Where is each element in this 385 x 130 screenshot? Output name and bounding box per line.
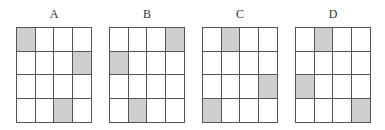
shaded-cell — [166, 28, 185, 52]
grid-cell — [333, 28, 352, 52]
grid-cell — [110, 99, 129, 123]
panel-label: B — [109, 7, 185, 21]
grid-panel-c: C — [202, 0, 278, 130]
shaded-cell — [54, 99, 73, 123]
grid-cell — [54, 28, 73, 52]
shaded-cell — [352, 99, 371, 123]
panel-label: C — [202, 7, 278, 21]
grid-cell — [17, 75, 36, 99]
grid — [109, 27, 185, 123]
grid-cell — [147, 75, 166, 99]
grid-cell — [17, 99, 36, 123]
grid-panel-b: B — [109, 0, 185, 130]
grid-cell — [129, 75, 148, 99]
grid-cell — [54, 52, 73, 76]
grid-cell — [36, 52, 55, 76]
shaded-cell — [222, 28, 241, 52]
grid-cell — [296, 99, 315, 123]
grid-cell — [203, 28, 222, 52]
shaded-cell — [129, 99, 148, 123]
grid-cell — [110, 75, 129, 99]
grid-cell — [333, 75, 352, 99]
grid-cell — [110, 28, 129, 52]
grid-panel-d: D — [295, 0, 371, 130]
grid-cell — [166, 99, 185, 123]
shaded-cell — [110, 52, 129, 76]
grid-cell — [17, 52, 36, 76]
grid-cell — [147, 52, 166, 76]
grid-cell — [222, 75, 241, 99]
grid-cell — [352, 75, 371, 99]
grid-cell — [315, 52, 334, 76]
shaded-cell — [315, 28, 334, 52]
grid-cell — [333, 52, 352, 76]
grid-cell — [240, 75, 259, 99]
shaded-cell — [73, 52, 92, 76]
grid-cell — [73, 28, 92, 52]
grid-cell — [352, 52, 371, 76]
grid-cell — [73, 75, 92, 99]
grid-cell — [166, 52, 185, 76]
grid-cell — [129, 52, 148, 76]
grid-cell — [222, 52, 241, 76]
shaded-cell — [17, 28, 36, 52]
grid-cell — [333, 99, 352, 123]
shaded-cell — [259, 75, 278, 99]
grid-cell — [259, 28, 278, 52]
grid-cell — [259, 52, 278, 76]
grid-cell — [240, 52, 259, 76]
grid-cell — [240, 28, 259, 52]
grid — [16, 27, 92, 123]
grid-cell — [315, 99, 334, 123]
panel-label: A — [16, 7, 92, 21]
grid-cell — [166, 75, 185, 99]
grid — [295, 27, 371, 123]
grid-cell — [259, 99, 278, 123]
grid-cell — [129, 28, 148, 52]
grid-panel-a: A — [16, 0, 92, 130]
grid-cell — [36, 99, 55, 123]
grid-cell — [315, 75, 334, 99]
grid-cell — [240, 99, 259, 123]
shaded-cell — [203, 99, 222, 123]
grid-cell — [222, 99, 241, 123]
grid-cell — [54, 75, 73, 99]
grid-cell — [36, 28, 55, 52]
grid-cell — [296, 52, 315, 76]
grid-cell — [203, 75, 222, 99]
grid — [202, 27, 278, 123]
grid-cell — [36, 75, 55, 99]
grid-cell — [147, 28, 166, 52]
grid-cell — [203, 52, 222, 76]
grid-cell — [296, 28, 315, 52]
shaded-cell — [296, 75, 315, 99]
grid-cell — [147, 99, 166, 123]
grid-cell — [352, 28, 371, 52]
panel-label: D — [295, 7, 371, 21]
grid-cell — [73, 99, 92, 123]
